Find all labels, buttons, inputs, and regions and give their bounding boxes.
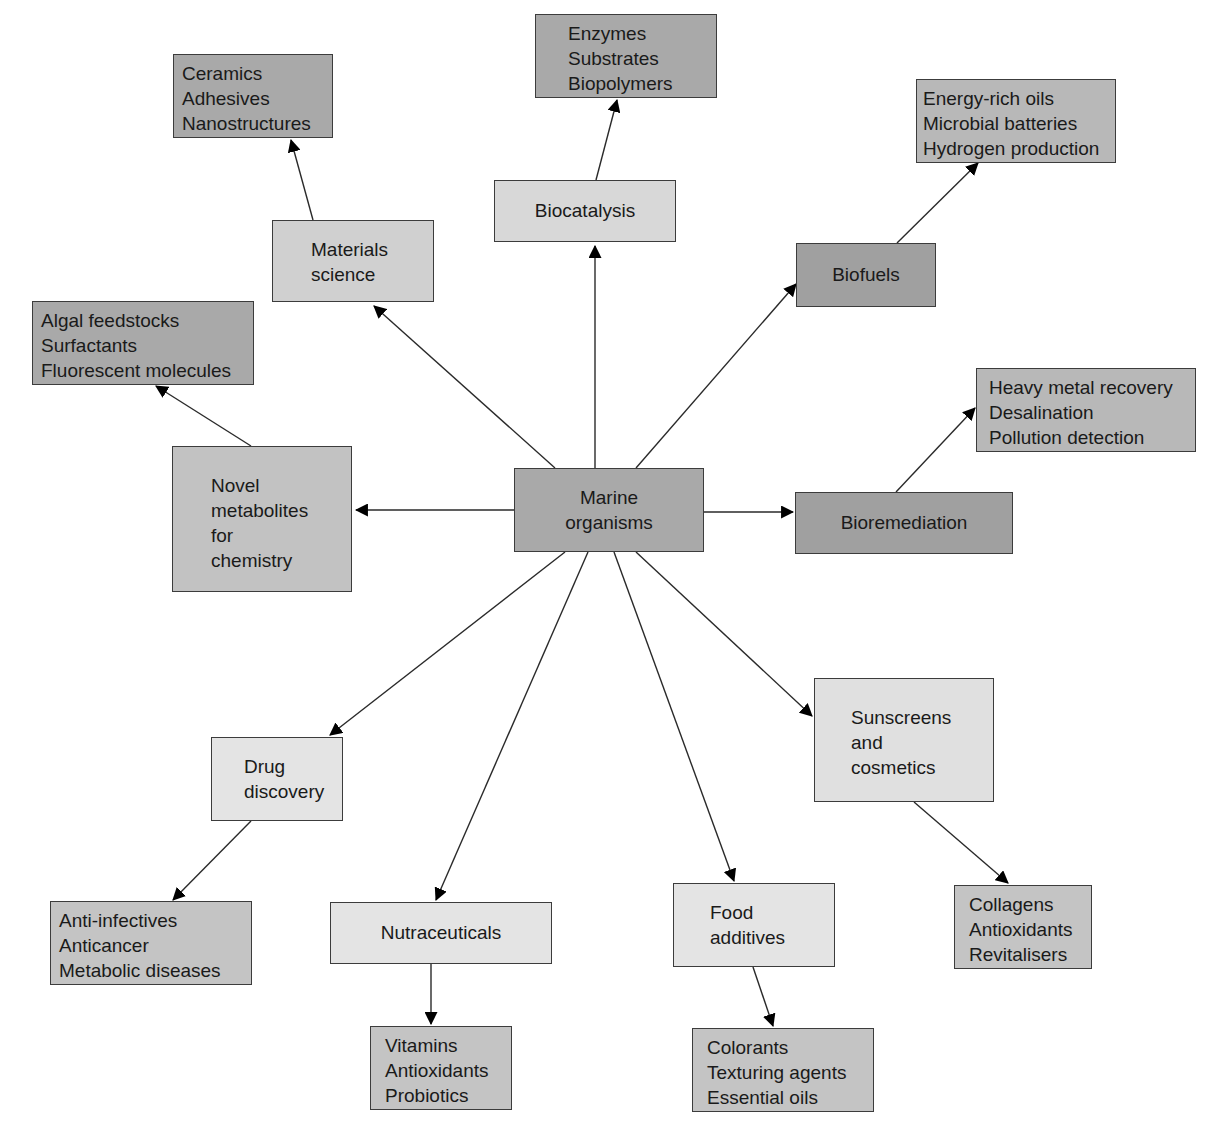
center-node-marine: Marineorganisms [514,468,704,552]
node-label-line: Fluorescent molecules [41,358,231,383]
arrow-drug_discovery-to-drug_discovery_details [173,821,251,900]
node-label-line: Substrates [568,46,673,71]
node-label-line: Texturing agents [707,1060,846,1085]
arrow-materials-to-materials_details [291,140,313,220]
node-label-line: Marine [515,485,703,510]
node-text: Heavy metal recoveryDesalinationPollutio… [989,375,1173,450]
node-text: Drugdiscovery [244,754,324,804]
node-text: VitaminsAntioxidantsProbiotics [385,1033,489,1108]
arrow-biocatalysis-to-biocatalysis_details [596,100,617,180]
arrow-bioremediation-to-bioremediation_details [896,408,975,492]
node-text: Marineorganisms [515,485,703,535]
node-label-line: discovery [244,779,324,804]
node-drug-discovery: Drugdiscovery [211,737,343,821]
node-label-line: Anti-infectives [59,908,221,933]
node-label-line: Antioxidants [969,917,1073,942]
node-label-line: Biofuels [797,262,935,287]
node-text: CeramicsAdhesivesNanostructures [182,61,311,136]
node-label-line: Novel [211,473,308,498]
arrow-marine-to-drug_discovery [330,552,565,735]
node-novel-metabolites-details: Algal feedstocksSurfactantsFluorescent m… [32,301,254,385]
node-text: Nutraceuticals [331,920,551,945]
arrow-marine-to-nutraceuticals [436,552,588,900]
node-label-line: Biopolymers [568,71,673,96]
node-text: Foodadditives [710,900,785,950]
arrow-sunscreens-to-sunscreens_details [914,802,1008,883]
node-text: Biocatalysis [495,198,675,223]
node-label-line: Sunscreens [851,705,951,730]
node-nutraceuticals-details: VitaminsAntioxidantsProbiotics [370,1026,512,1110]
node-biocatalysis-details: EnzymesSubstratesBiopolymers [535,14,717,98]
node-label-line: Bioremediation [796,510,1012,535]
node-label-line: metabolites [211,498,308,523]
node-text: Novelmetabolitesforchemistry [211,473,308,573]
node-label-line: Enzymes [568,21,673,46]
node-label-line: additives [710,925,785,950]
node-bioremediation: Bioremediation [795,492,1013,554]
node-label-line: for [211,523,308,548]
node-sunscreens: Sunscreensandcosmetics [814,678,994,802]
node-label-line: Colorants [707,1035,846,1060]
node-text: Materialsscience [311,237,388,287]
node-label-line: Heavy metal recovery [989,375,1173,400]
node-bioremediation-details: Heavy metal recoveryDesalinationPollutio… [976,368,1196,452]
node-label-line: Surfactants [41,333,231,358]
node-materials: Materialsscience [272,220,434,302]
node-label-line: Ceramics [182,61,311,86]
node-text: Bioremediation [796,510,1012,535]
node-biofuels: Biofuels [796,243,936,307]
node-label-line: and [851,730,951,755]
node-text: Anti-infectivesAnticancerMetabolic disea… [59,908,221,983]
node-label-line: cosmetics [851,755,951,780]
node-text: EnzymesSubstratesBiopolymers [568,21,673,96]
node-label-line: Pollution detection [989,425,1173,450]
node-label-line: Microbial batteries [923,111,1099,136]
node-label-line: Biocatalysis [495,198,675,223]
node-label-line: Energy-rich oils [923,86,1099,111]
node-label-line: science [311,262,388,287]
node-text: Biofuels [797,262,935,287]
node-label-line: chemistry [211,548,308,573]
node-label-line: Drug [244,754,324,779]
node-novel-metabolites: Novelmetabolitesforchemistry [172,446,352,592]
node-drug-discovery-details: Anti-infectivesAnticancerMetabolic disea… [50,901,252,985]
node-label-line: Materials [311,237,388,262]
node-sunscreens-details: CollagensAntioxidantsRevitalisers [954,885,1092,969]
node-text: CollagensAntioxidantsRevitalisers [969,892,1073,967]
arrow-food_additives-to-food_additives_details [753,967,773,1026]
node-text: Algal feedstocksSurfactantsFluorescent m… [41,308,231,383]
node-label-line: Metabolic diseases [59,958,221,983]
node-label-line: Antioxidants [385,1058,489,1083]
node-text: Energy-rich oilsMicrobial batteriesHydro… [923,86,1099,161]
node-label-line: Food [710,900,785,925]
node-label-line: Probiotics [385,1083,489,1108]
node-nutraceuticals: Nutraceuticals [330,902,552,964]
node-label-line: Adhesives [182,86,311,111]
node-label-line: Essential oils [707,1085,846,1110]
node-materials-details: CeramicsAdhesivesNanostructures [173,54,333,138]
arrow-marine-to-sunscreens [636,552,812,716]
arrow-marine-to-food_additives [614,552,734,881]
node-label-line: Vitamins [385,1033,489,1058]
node-label-line: organisms [515,510,703,535]
node-label-line: Nutraceuticals [331,920,551,945]
node-label-line: Collagens [969,892,1073,917]
node-biocatalysis: Biocatalysis [494,180,676,242]
node-text: Sunscreensandcosmetics [851,705,951,780]
node-biofuels-details: Energy-rich oilsMicrobial batteriesHydro… [916,79,1116,163]
node-label-line: Hydrogen production [923,136,1099,161]
node-label-line: Algal feedstocks [41,308,231,333]
arrow-marine-to-biofuels [636,284,796,468]
arrow-biofuels-to-biofuels_details [897,163,978,243]
node-label-line: Revitalisers [969,942,1073,967]
node-label-line: Nanostructures [182,111,311,136]
arrow-marine-to-materials [374,306,555,468]
arrow-novel_metabolites-to-novel_metabolites_details [156,386,251,446]
node-text: ColorantsTexturing agentsEssential oils [707,1035,846,1110]
node-label-line: Desalination [989,400,1173,425]
node-food-additives: Foodadditives [673,883,835,967]
node-food-additives-details: ColorantsTexturing agentsEssential oils [692,1028,874,1112]
node-label-line: Anticancer [59,933,221,958]
